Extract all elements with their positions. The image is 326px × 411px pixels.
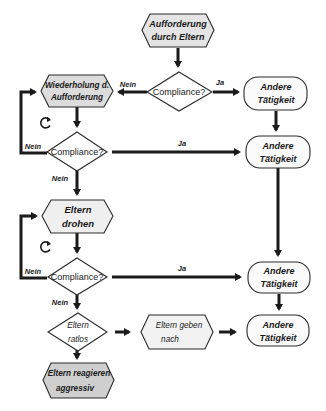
node-label: Eltern xyxy=(67,321,89,330)
node-compliance2: Compliance? xyxy=(47,132,107,171)
edge-label-yes: Ja xyxy=(178,139,186,148)
node-compliance1: Compliance? xyxy=(147,72,212,111)
node-other2: Andere Tätigkeit xyxy=(246,136,310,168)
node-label: aggressiv xyxy=(56,384,95,393)
node-label: Eltern reagieren xyxy=(48,369,110,378)
node-other1: Andere Tätigkeit xyxy=(244,77,307,110)
edge-label-yes: Ja xyxy=(216,78,224,87)
edge-label-yes: Ja xyxy=(178,264,186,273)
node-repeat: Wiederholung d. Aufforderung xyxy=(41,75,113,107)
node-label: Compliance? xyxy=(51,272,104,282)
node-label: Andere xyxy=(261,141,293,151)
node-threat: Eltern drohen xyxy=(42,200,113,233)
node-label: Wiederholung d. xyxy=(45,81,109,90)
node-label: Andere xyxy=(261,320,293,330)
node-label: Tätigkeit xyxy=(259,333,297,343)
node-label: Compliance? xyxy=(153,87,206,97)
edge-label-no: Nein xyxy=(120,80,137,89)
node-label: Eltern xyxy=(65,204,92,215)
node-label: Tätigkeit xyxy=(260,279,298,289)
node-label: Aufforderung xyxy=(50,93,103,102)
loop-icon xyxy=(41,241,51,252)
node-aggressive: Eltern reagieren aggressiv xyxy=(43,363,114,398)
flowchart-canvas: Aufforderung durch Eltern Compliance? Ne… xyxy=(0,0,326,411)
node-start: Aufforderung durch Eltern xyxy=(142,14,214,47)
edge-label-no: Nein xyxy=(25,267,42,276)
node-label: durch Eltern xyxy=(151,32,205,42)
loop-icon xyxy=(41,117,51,128)
node-label: Andere xyxy=(262,266,294,276)
node-label: Andere xyxy=(259,82,291,92)
node-compliance3: Compliance? xyxy=(48,258,107,295)
edge-label-no: Nein xyxy=(25,142,42,151)
edge-label-no: Nein xyxy=(52,298,69,307)
node-label: Compliance? xyxy=(51,147,104,157)
node-giveup: Eltern geben nach xyxy=(141,315,213,349)
node-helpless: Eltern ratlos xyxy=(48,313,107,351)
node-other4: Andere Tätigkeit xyxy=(247,315,309,346)
diamond-shape xyxy=(48,313,107,351)
node-label: nach xyxy=(161,335,179,344)
hexagon-shape xyxy=(41,75,113,107)
node-label: ratlos xyxy=(68,335,88,344)
node-label: Aufforderung xyxy=(148,19,207,29)
node-label: Eltern geben xyxy=(156,321,203,330)
node-other3: Andere Tätigkeit xyxy=(248,262,310,293)
node-label: drohen xyxy=(62,218,94,229)
edge-label-no: Nein xyxy=(52,174,69,183)
node-label: Tätigkeit xyxy=(259,154,297,164)
node-label: Tätigkeit xyxy=(257,95,295,105)
